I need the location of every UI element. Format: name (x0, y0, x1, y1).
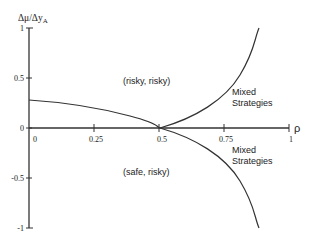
region-label-risky-risky: (risky, risky) (123, 76, 170, 86)
x-tick-label: 0.25 (89, 135, 103, 144)
region-label-mixed-lower: Strategies (232, 156, 273, 166)
region-label-mixed-upper: Mixed (232, 87, 256, 97)
region-label-mixed-upper: Strategies (232, 98, 273, 108)
curve-lower (160, 128, 259, 228)
y-tick-label: 0 (20, 124, 24, 133)
x-tick-label: 0.75 (219, 135, 233, 144)
curve-left (29, 100, 160, 128)
x-tick-label: 0 (33, 135, 37, 144)
y-tick-label: -0.5 (11, 174, 24, 183)
x-tick-label: 0.5 (157, 135, 167, 144)
chart: 1 0.5 0 -0.5 -1 0 0.25 0.5 0.75 1 ρ Δμ/Δ… (0, 0, 318, 247)
x-axis-label: ρ (294, 122, 300, 134)
region-label-safe-risky: (safe, risky) (123, 167, 170, 177)
region-label-mixed-lower: Mixed (232, 145, 256, 155)
y-tick-label: 1 (20, 24, 24, 33)
x-tick-label: 1 (289, 135, 293, 144)
y-tick-label: 0.5 (14, 74, 24, 83)
y-tick-label: -1 (17, 224, 24, 233)
curve-upper (160, 28, 259, 128)
